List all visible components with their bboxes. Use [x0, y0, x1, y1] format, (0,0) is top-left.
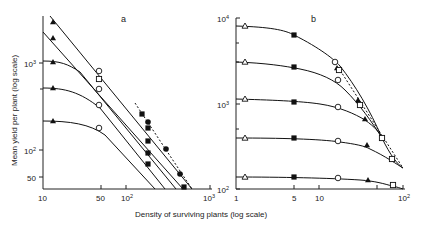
panel-b-ytick-10000: 104 — [217, 14, 229, 24]
panel-b-xtick-10: 10 — [315, 194, 324, 203]
panel-a-xtick-50: 50 — [96, 194, 105, 203]
panel-b-ytick-1000: 103 — [217, 100, 229, 110]
y-axis-label: Mean yield per plant (log scale) — [10, 54, 19, 166]
panel-b: b 104 103 102 1 5 10 102 — [217, 14, 410, 203]
panel-b-curve-1 — [236, 26, 403, 168]
panel-a-ytick-50: 50 — [27, 174, 36, 183]
x-axis-label: Density of surviving plants (log scale) — [135, 210, 267, 219]
panel-a-xtick-1000: 103 — [203, 193, 215, 203]
panel-b-y-ticks — [236, 18, 240, 189]
panel-a-markers — [50, 19, 187, 190]
panel-b-x-ticks — [294, 185, 403, 189]
panel-b-dashed-limit — [338, 67, 403, 168]
panel-a-curves — [43, 16, 192, 189]
panel-a-xtick-10: 10 — [38, 194, 47, 203]
panel-b-xtick-1: 1 — [234, 194, 239, 203]
chart-figure: a 103 102 50 10 50 102 103 — [0, 0, 421, 225]
panel-a-x-ticks — [101, 185, 210, 189]
panel-b-xtick-100: 102 — [398, 193, 410, 203]
panel-a-curve-3 — [43, 61, 176, 189]
panel-b-ytick-100: 102 — [217, 185, 229, 195]
panel-a-curve-1 — [50, 16, 192, 189]
panel-b-markers — [242, 23, 396, 188]
panel-a: a 103 102 50 10 50 102 103 — [24, 14, 215, 203]
panel-b-label: b — [311, 14, 316, 24]
panel-a-curve-2 — [43, 32, 183, 189]
panel-a-label: a — [121, 14, 126, 24]
panel-a-ytick-100: 102 — [24, 146, 36, 156]
panel-b-xtick-5: 5 — [292, 194, 297, 203]
panel-a-y-ticks — [39, 63, 43, 177]
panel-b-curves — [236, 26, 403, 189]
panel-b-curve-4 — [236, 138, 403, 168]
panel-a-ytick-1000: 103 — [24, 59, 36, 69]
panel-a-xtick-100: 102 — [121, 193, 133, 203]
